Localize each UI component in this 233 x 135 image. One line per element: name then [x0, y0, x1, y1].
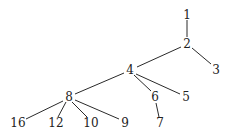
edges-group	[26, 20, 211, 119]
edge-6-7	[156, 103, 159, 117]
edge-8-12	[58, 102, 66, 117]
tree-diagram: 123456789101216	[0, 0, 233, 135]
node-5: 5	[182, 90, 190, 104]
edge-2-4	[137, 47, 181, 67]
edge-2-3	[192, 48, 211, 64]
node-3: 3	[212, 63, 220, 77]
node-12: 12	[48, 116, 63, 130]
node-10: 10	[83, 116, 98, 130]
node-16: 16	[10, 116, 25, 130]
node-6: 6	[151, 90, 159, 104]
tree-svg: 123456789101216	[0, 0, 233, 135]
node-4: 4	[126, 63, 134, 77]
node-1: 1	[183, 8, 191, 22]
node-7: 7	[156, 116, 164, 130]
edge-4-8	[75, 73, 124, 94]
node-2: 2	[183, 37, 191, 51]
node-9: 9	[121, 116, 129, 130]
node-8: 8	[65, 90, 73, 104]
